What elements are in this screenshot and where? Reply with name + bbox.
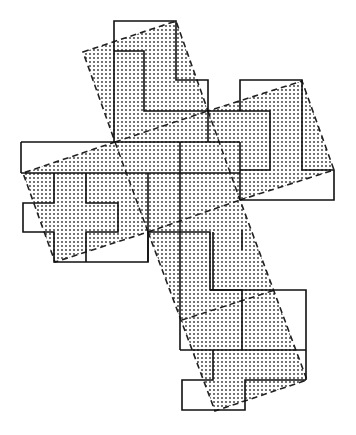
cross-dissection-diagram xyxy=(0,0,356,435)
figure-canvas: Dissection of a cross: tilted shaded cro… xyxy=(0,0,356,435)
